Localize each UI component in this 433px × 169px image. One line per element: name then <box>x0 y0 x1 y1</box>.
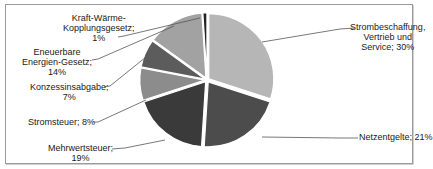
label-konzessinsabgabe: Konzessinsabgabe; 7% <box>30 82 109 102</box>
label-line: Eneuerbare <box>22 47 92 57</box>
label-line: Kopplungsgesetz; <box>63 23 135 33</box>
label-line: 19% <box>48 153 113 163</box>
label-kwk: Kraft-Wärme- Kopplungsgesetz; 1% <box>63 13 135 43</box>
leader-line-netz <box>262 137 358 138</box>
label-line: Netzentgelte; 21% <box>359 132 433 142</box>
label-line: Mehrwertsteuer; <box>48 143 113 153</box>
label-line: 14% <box>22 67 92 77</box>
leader-line-stromsteuer <box>93 100 146 122</box>
label-line: 7% <box>30 92 109 102</box>
label-line: Service; 30% <box>350 42 425 52</box>
label-line: Kraft-Wärme- <box>63 13 135 23</box>
label-strombeschaffung: Strombeschaffung, Vertrieb und Service; … <box>350 22 425 52</box>
label-mehrwertsteuer: Mehrwertsteuer; 19% <box>48 143 113 163</box>
leader-line-strom <box>262 28 355 42</box>
label-line: Konzessinsabgabe; <box>30 82 109 92</box>
label-line: Vertrieb und <box>350 32 425 42</box>
label-eeg: Eneuerbare Energien-Gesetz; 14% <box>22 47 92 77</box>
label-line: 1% <box>63 33 135 43</box>
label-netzentgelte: Netzentgelte; 21% <box>359 132 433 142</box>
pie-slices <box>140 13 274 147</box>
label-line: Strombeschaffung, <box>350 22 425 32</box>
label-stromsteuer: Stromsteuer; 8% <box>28 117 95 127</box>
leader-line-mwst <box>112 140 165 149</box>
label-line: Energien-Gesetz; <box>22 57 92 67</box>
label-line: Stromsteuer; 8% <box>28 117 95 127</box>
